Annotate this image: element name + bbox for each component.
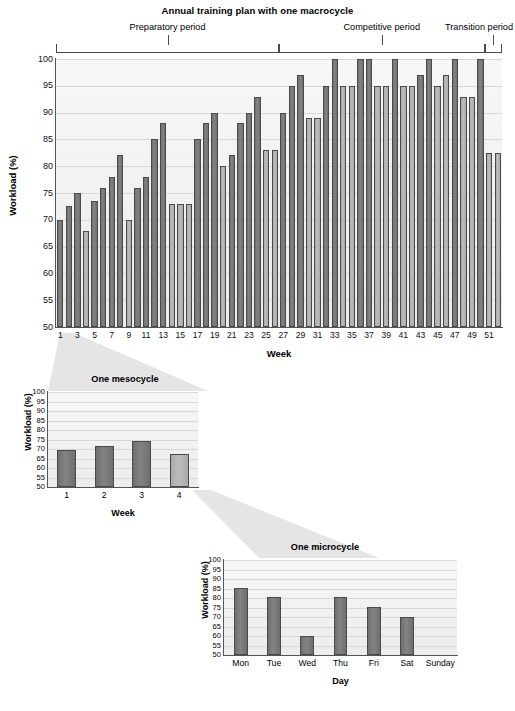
bar <box>254 97 260 327</box>
main-chart-x-axis-label: Week <box>56 348 502 359</box>
y-axis-tick-label: 90 <box>201 575 221 583</box>
bar <box>409 86 415 327</box>
gridline <box>48 402 198 403</box>
y-axis-tick-label: 60 <box>27 269 53 278</box>
gridline <box>224 560 457 561</box>
y-axis-tick-label: 100 <box>25 388 45 396</box>
y-axis-tick-label: 50 <box>25 483 45 491</box>
x-axis-tick-label: 43 <box>412 331 430 340</box>
bar <box>417 75 423 327</box>
bar <box>177 204 183 327</box>
x-axis-tick-label: 2 <box>94 491 114 500</box>
meso-chart-y-axis <box>47 391 48 488</box>
x-axis-tick-label: 47 <box>446 331 464 340</box>
gridline <box>224 570 457 571</box>
bar <box>95 446 114 487</box>
period-bracket <box>485 44 502 53</box>
bar <box>272 150 278 327</box>
bar <box>246 113 252 327</box>
meso-chart-x-axis-label: Week <box>48 508 198 518</box>
bar <box>132 441 151 487</box>
y-axis-tick-label: 65 <box>27 242 53 251</box>
y-axis-tick-label: 70 <box>201 613 221 621</box>
x-axis-tick-label: 35 <box>343 331 361 340</box>
period-bracket-stem <box>382 35 383 45</box>
x-axis-tick-label: 31 <box>309 331 327 340</box>
micro-chart-title: One microcycle <box>240 542 410 552</box>
y-axis-tick-label: 65 <box>201 623 221 631</box>
bar <box>300 636 314 655</box>
bar <box>486 153 492 327</box>
bar <box>143 177 149 327</box>
bar <box>289 86 295 327</box>
gridline <box>224 589 457 590</box>
bar <box>220 166 226 327</box>
x-axis-tick-label: 19 <box>206 331 224 340</box>
bar <box>57 450 76 487</box>
bar <box>477 59 483 327</box>
y-axis-tick-label: 55 <box>201 642 221 650</box>
gridline <box>224 579 457 580</box>
x-axis-tick-label: Wed <box>289 659 325 668</box>
bar <box>100 188 106 327</box>
bar <box>263 150 269 327</box>
y-axis-tick-label: 60 <box>25 464 45 472</box>
bar <box>151 139 157 327</box>
bar <box>495 153 501 327</box>
bar <box>57 220 63 327</box>
x-axis-tick-label: Mon <box>223 659 259 668</box>
y-axis-tick-label: 55 <box>25 474 45 482</box>
bar <box>126 220 132 327</box>
x-axis-tick-label: Sat <box>389 659 425 668</box>
bar <box>469 97 475 327</box>
main-chart-y-axis <box>55 58 56 328</box>
x-axis-tick-label: Sunday <box>422 659 458 668</box>
bar <box>170 454 189 487</box>
bar <box>392 59 398 327</box>
y-axis-tick-label: 65 <box>25 455 45 463</box>
y-axis-tick-label: 70 <box>27 215 53 224</box>
x-axis-tick-label: 21 <box>223 331 241 340</box>
x-axis-tick-label: 15 <box>171 331 189 340</box>
y-axis-tick-label: 70 <box>25 445 45 453</box>
y-axis-tick-label: 90 <box>25 407 45 415</box>
x-axis-tick-label: 5 <box>86 331 104 340</box>
bar <box>117 155 123 327</box>
y-axis-tick-label: 100 <box>27 55 53 64</box>
meso-chart-x-axis <box>48 487 199 488</box>
bar <box>460 97 466 327</box>
x-axis-tick-label: 1 <box>51 331 69 340</box>
bar <box>374 86 380 327</box>
bar <box>234 588 248 655</box>
y-axis-tick-label: 80 <box>27 162 53 171</box>
y-axis-tick-label: 85 <box>27 135 53 144</box>
bar <box>267 597 281 655</box>
period-bracket-stem <box>168 35 169 45</box>
x-axis-tick-label: 13 <box>154 331 172 340</box>
bar <box>357 59 363 327</box>
micro-chart-x-axis-label: Day <box>224 676 457 686</box>
gridline <box>48 421 198 422</box>
bar <box>169 204 175 327</box>
x-axis-tick-label: 11 <box>137 331 155 340</box>
x-axis-tick-label: Thu <box>323 659 359 668</box>
y-axis-tick-label: 85 <box>201 585 221 593</box>
bar <box>323 86 329 327</box>
bar <box>297 75 303 327</box>
y-axis-tick-label: 60 <box>201 632 221 640</box>
x-axis-tick-label: 23 <box>240 331 258 340</box>
x-axis-tick-label: 29 <box>291 331 309 340</box>
micro-chart-y-axis <box>223 559 224 656</box>
x-axis-tick-label: Fri <box>356 659 392 668</box>
bar <box>74 193 80 327</box>
gridline <box>48 440 198 441</box>
period-bracket <box>279 44 485 53</box>
y-axis-tick-label: 80 <box>25 426 45 434</box>
x-axis-tick-label: 3 <box>68 331 86 340</box>
x-axis-tick-label: 7 <box>103 331 121 340</box>
x-axis-tick-label: 39 <box>377 331 395 340</box>
bar <box>306 118 312 327</box>
period-bracket <box>56 44 279 53</box>
bar <box>83 231 89 327</box>
y-axis-tick-label: 75 <box>27 189 53 198</box>
